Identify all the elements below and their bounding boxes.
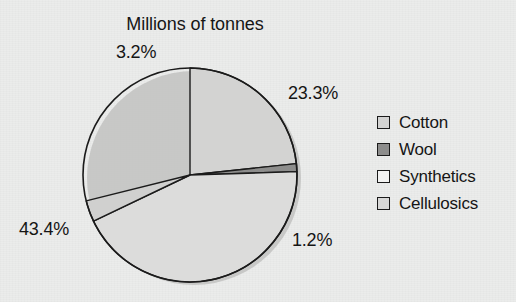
legend-swatch-wool xyxy=(377,143,390,156)
slice-value-label-cellulosics: 3.2% xyxy=(116,42,156,63)
slice-value-label-synthetics: 43.4% xyxy=(19,219,69,240)
slice-value-label-cotton: 23.3% xyxy=(288,83,338,104)
legend: Cotton Wool Synthetics Cellulosics xyxy=(377,109,515,217)
legend-label-synthetics: Synthetics xyxy=(399,167,475,187)
chart-title: Millions of tonnes xyxy=(0,14,390,35)
slice-value-label-wool: 1.2% xyxy=(292,230,332,251)
pie-chart xyxy=(72,58,312,296)
legend-swatch-cellulosics xyxy=(377,197,390,210)
legend-label-cotton: Cotton xyxy=(399,113,448,133)
chart-page: Millions of tonnes 3.2% 23.3% 1.2% 43.4%… xyxy=(0,0,516,302)
legend-swatch-synthetics xyxy=(377,170,390,183)
pie-svg xyxy=(72,58,312,296)
legend-swatch-cotton xyxy=(377,116,390,129)
legend-label-wool: Wool xyxy=(399,140,437,160)
legend-label-cellulosics: Cellulosics xyxy=(399,194,478,214)
legend-item-synthetics: Synthetics xyxy=(377,163,515,190)
legend-item-wool: Wool xyxy=(377,136,515,163)
legend-item-cotton: Cotton xyxy=(377,109,515,136)
pie-slice-cotton xyxy=(190,68,296,175)
legend-item-cellulosics: Cellulosics xyxy=(377,190,515,217)
